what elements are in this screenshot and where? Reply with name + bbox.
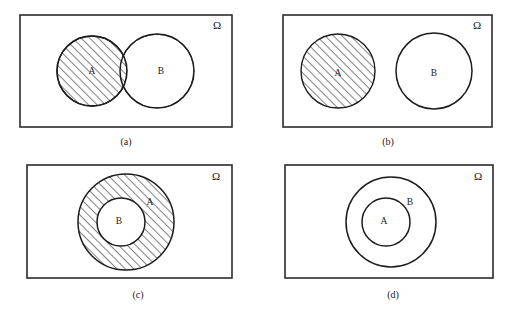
panel-d-universe-label: Ω — [474, 170, 482, 182]
panel-d-label-b: B — [407, 197, 413, 207]
panel-c-label-b: B — [116, 216, 122, 226]
venn-figure-root: A B Ω (a) A B Ω (b) A B Ω (c) — [0, 0, 512, 313]
venn-figure-canvas: A B Ω (a) A B Ω (b) A B Ω (c) — [0, 0, 512, 313]
panel-d-label-a: A — [381, 216, 388, 226]
panel-d-universe-rect — [285, 165, 493, 278]
panel-c-universe-label: Ω — [212, 170, 220, 182]
panel-d-caption: (d) — [387, 289, 399, 301]
panel-c-label-a: A — [147, 197, 154, 207]
panel-c-caption: (c) — [132, 289, 143, 301]
